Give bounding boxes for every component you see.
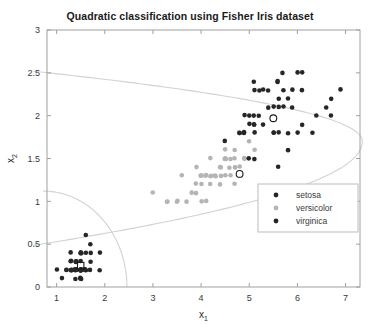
data-point [261,122,266,127]
data-point [276,165,281,170]
data-point [266,105,271,110]
x-tick-label: 2 [102,293,107,303]
legend[interactable]: setosaversicolorvirginica [258,184,358,232]
chart-canvas: 123456700.511.522.53 x1x2 setosaversicol… [0,0,380,325]
data-point [252,88,257,93]
x-tick-label: 4 [199,293,204,303]
data-point [68,250,73,255]
legend-marker-icon [274,206,279,211]
data-point [280,71,285,76]
y-tick-label: 0.5 [27,239,40,249]
data-point [232,181,237,186]
data-point [223,147,228,152]
data-point [68,259,73,264]
data-point [223,173,228,178]
data-point [88,251,93,256]
data-point [60,276,65,281]
data-point [281,88,286,93]
data-point [286,96,291,101]
data-point [232,156,237,161]
data-point [194,191,199,196]
data-point [204,199,209,204]
data-point [69,268,74,273]
data-point [98,250,103,255]
data-point [300,123,305,128]
data-point [84,250,89,255]
data-point [194,181,199,186]
data-point [88,260,93,265]
data-point [271,104,276,109]
data-point [295,70,300,75]
data-point [88,242,93,247]
data-point [84,233,89,238]
data-point [286,131,291,136]
misclassified-marker [270,115,277,122]
data-point [252,157,257,162]
data-point [324,105,329,110]
data-point [251,79,256,84]
data-point [227,165,232,170]
series-virginica [222,70,342,169]
data-point [295,130,300,135]
data-point [237,131,242,136]
data-point [150,190,155,195]
data-point [300,70,305,75]
data-point [199,173,204,178]
data-points-layer [55,70,343,281]
data-point [251,113,256,118]
data-point [271,130,276,135]
data-point [228,173,233,178]
data-point [232,148,237,153]
data-point [290,87,295,92]
data-point [281,104,286,109]
data-point [242,157,247,162]
data-point [314,113,319,118]
data-point [209,174,214,179]
data-point [276,105,281,110]
legend-marker-icon [274,219,279,224]
data-point [203,173,208,178]
data-point [79,250,84,255]
data-point [276,130,281,135]
y-tick-label: 0 [35,282,40,292]
data-point [256,113,261,118]
data-point [189,190,194,195]
x-axis-title: x1 [199,309,208,322]
data-point [266,88,271,93]
data-point [300,88,305,93]
data-point [286,148,291,153]
data-point [179,173,184,178]
data-point [290,105,295,110]
data-point [228,157,233,162]
data-point [252,122,257,127]
data-point [165,199,170,204]
plot-frame [47,30,360,287]
data-point [213,174,218,179]
x-tick-label: 7 [343,293,348,303]
figure-container: Quadratic classification using Fisher Ir… [0,0,380,325]
data-point [329,113,334,118]
boundary-setosa [43,191,127,287]
data-point [199,199,204,204]
data-point [64,268,69,273]
data-point [246,156,251,161]
data-point [199,182,204,187]
data-point [55,267,60,272]
data-point [218,182,223,187]
data-point [242,130,247,135]
y-tick-label: 2.5 [27,68,40,78]
data-point [73,277,78,282]
data-point [233,165,238,170]
legend-item-label: virginica [296,216,327,226]
data-point [242,113,247,118]
x-tick-label: 1 [54,293,59,303]
series-setosa [55,233,103,282]
data-point [208,182,213,187]
data-point [222,139,227,144]
data-point [338,87,343,92]
axis-layer [47,30,360,287]
data-point [257,88,262,93]
data-point [252,147,257,152]
x-tick-label: 5 [247,293,252,303]
misclassified-marker [236,171,243,178]
